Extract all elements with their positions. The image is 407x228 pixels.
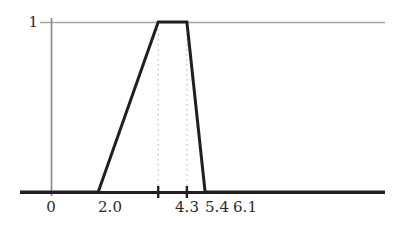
x-tick-label-6-1: 6.1 — [233, 200, 257, 215]
x-tick-label-5-4: 5.4 — [205, 200, 229, 215]
y-tick-label-1: 1 — [28, 15, 38, 30]
fuzzy-membership-chart: 1 0 2.0 4.3 5.4 6.1 — [0, 0, 407, 228]
chart-canvas — [0, 0, 407, 228]
x-tick-label-0: 0 — [46, 200, 56, 215]
x-tick-label-4-3: 4.3 — [175, 200, 199, 215]
x-tick-label-2-0: 2.0 — [98, 200, 122, 215]
membership-function-curve — [20, 22, 385, 192]
